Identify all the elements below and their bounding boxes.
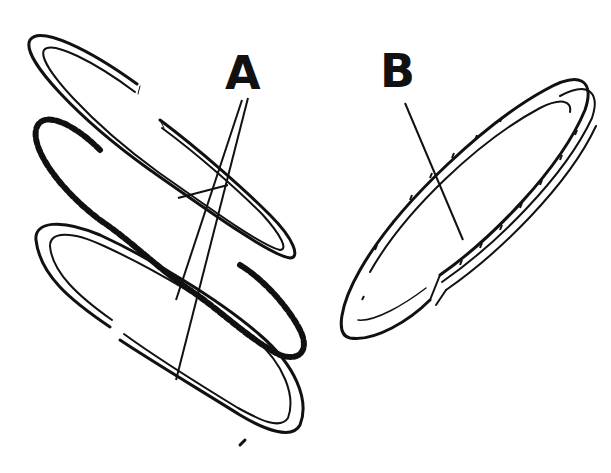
bottom-compression-ring	[36, 224, 303, 445]
label-b: B	[380, 48, 415, 94]
label-a: A	[225, 50, 261, 96]
leader-lines	[176, 98, 463, 380]
piston-ring-illustration: A B	[0, 0, 611, 473]
leader-a-middle	[176, 100, 242, 300]
ring-drawing	[0, 0, 611, 473]
oil-control-ring	[341, 80, 596, 339]
ring-expander-chain	[36, 120, 304, 357]
